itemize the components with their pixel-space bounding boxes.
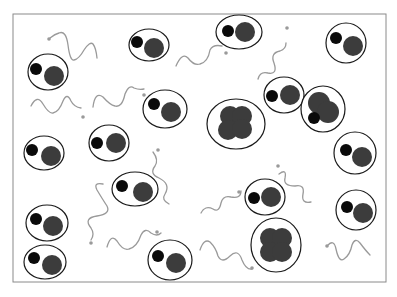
atom-helium bbox=[207, 99, 265, 149]
photon-path bbox=[201, 191, 241, 213]
photon-wave bbox=[88, 184, 108, 245]
atom-hydrogen bbox=[129, 29, 169, 61]
photon-wave bbox=[201, 190, 241, 213]
atom-hydrogen bbox=[89, 125, 129, 161]
photon-path bbox=[31, 97, 81, 114]
atom-hydrogen bbox=[334, 132, 376, 174]
photon-arrowhead-icon bbox=[47, 37, 51, 41]
atom-hydrogen bbox=[148, 240, 192, 280]
nucleus bbox=[43, 216, 63, 236]
photon-wave bbox=[176, 46, 228, 67]
electron bbox=[30, 63, 42, 75]
photon-arrowhead-icon bbox=[142, 93, 146, 97]
electron bbox=[131, 36, 143, 48]
atom-hydrogen bbox=[216, 15, 262, 49]
nucleus bbox=[343, 36, 363, 56]
atom-layer bbox=[24, 15, 376, 280]
atom-hydrogen bbox=[28, 54, 68, 90]
electron bbox=[248, 192, 260, 204]
photon-wave bbox=[107, 230, 161, 249]
photon-wave bbox=[31, 97, 85, 119]
nucleus bbox=[166, 253, 186, 273]
nucleus bbox=[161, 102, 181, 122]
nucleus bbox=[44, 66, 64, 86]
photon-arrowhead-icon bbox=[224, 51, 228, 55]
electron bbox=[26, 144, 38, 156]
nucleus bbox=[261, 187, 281, 207]
particle-diagram bbox=[0, 0, 397, 297]
nucleus bbox=[352, 147, 372, 167]
photon-layer bbox=[31, 26, 370, 270]
electron bbox=[30, 213, 42, 225]
nucleus bbox=[235, 22, 255, 42]
photon-path bbox=[107, 230, 161, 249]
nucleus bbox=[144, 38, 164, 58]
nucleus bbox=[41, 146, 61, 166]
photon-arrowhead-icon bbox=[156, 148, 160, 152]
atom-hydrogen bbox=[336, 190, 376, 230]
atom-hydrogen bbox=[264, 77, 304, 113]
electron bbox=[266, 90, 278, 102]
nucleon bbox=[232, 119, 252, 139]
electron bbox=[340, 144, 352, 156]
photon-arrowhead-icon bbox=[276, 164, 280, 168]
nucleus bbox=[106, 133, 126, 153]
electron bbox=[148, 98, 160, 110]
electron bbox=[116, 180, 128, 192]
atom-hydrogen bbox=[112, 172, 158, 206]
photon-wave bbox=[325, 240, 370, 259]
electron bbox=[308, 112, 320, 124]
photon-path bbox=[258, 43, 286, 79]
photon-path bbox=[93, 87, 144, 107]
photon-wave bbox=[93, 87, 146, 107]
electron bbox=[91, 137, 103, 149]
photon-arrowhead-icon bbox=[155, 230, 159, 234]
atom-deuterium bbox=[301, 86, 345, 132]
electron bbox=[28, 252, 40, 264]
photon-arrowhead-icon bbox=[325, 244, 329, 248]
nucleus bbox=[353, 203, 373, 223]
photon-arrowhead-icon bbox=[285, 26, 289, 30]
electron bbox=[341, 201, 353, 213]
atom-hydrogen bbox=[24, 136, 64, 170]
atom-hydrogen bbox=[24, 245, 66, 279]
photon-path bbox=[328, 240, 370, 259]
photon-arrowhead-icon bbox=[81, 115, 85, 119]
nucleus bbox=[42, 255, 62, 275]
photon-arrowhead-icon bbox=[237, 190, 241, 194]
photon-wave bbox=[200, 241, 254, 270]
photon-arrowhead-icon bbox=[250, 266, 254, 270]
atom-hydrogen bbox=[245, 179, 285, 215]
atom-hydrogen bbox=[143, 90, 187, 128]
photon-path bbox=[176, 46, 222, 67]
photon-path bbox=[88, 184, 108, 240]
atom-hydrogen bbox=[26, 205, 68, 241]
nucleon bbox=[317, 101, 339, 123]
photon-arrowhead-icon bbox=[89, 241, 93, 245]
electron bbox=[222, 25, 234, 37]
nucleon bbox=[272, 242, 292, 262]
electron bbox=[152, 250, 164, 262]
nucleus bbox=[280, 85, 300, 105]
nucleus bbox=[133, 182, 153, 202]
atom-helium4 bbox=[251, 218, 301, 272]
atom-hydrogen bbox=[326, 23, 366, 63]
photon-wave bbox=[258, 26, 289, 79]
electron bbox=[330, 32, 342, 44]
photon-path bbox=[200, 241, 252, 269]
